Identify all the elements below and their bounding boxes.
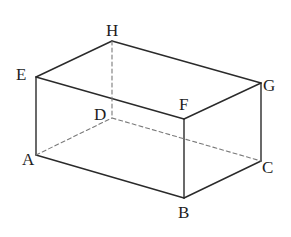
vertex-label-g: G: [263, 76, 275, 95]
vertex-label-h: H: [106, 21, 118, 40]
cuboid-diagram: H E G F D A C B: [0, 0, 291, 237]
vertex-label-c: C: [262, 158, 273, 177]
edge-bc: [184, 161, 261, 198]
edge-fg: [184, 83, 261, 119]
edge-ef: [36, 77, 184, 119]
vertex-label-e: E: [16, 65, 26, 84]
vertex-label-f: F: [179, 95, 188, 114]
edge-eh: [36, 41, 112, 77]
edge-hg: [112, 41, 261, 83]
vertex-label-d: D: [94, 105, 106, 124]
edge-dc: [112, 118, 261, 161]
vertex-label-b: B: [178, 203, 189, 222]
vertex-label-a: A: [22, 150, 35, 169]
edges: [36, 41, 261, 198]
edge-ab: [36, 155, 184, 198]
